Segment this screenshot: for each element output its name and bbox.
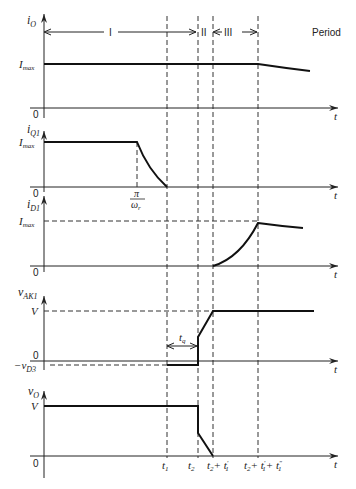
pi-over-omega-label: π ωr [130, 188, 145, 212]
id1-ylabel: iD1 [27, 197, 40, 213]
vo-v-label: V [31, 400, 39, 412]
t2-plus-t1p-plus-t1pp-label: t2+ t′1+ t″1 [244, 459, 282, 473]
io-imax-label: Imax [18, 58, 35, 72]
panel-id1: iD1 Imax 0 t [18, 196, 338, 280]
iq1-waveform [44, 142, 167, 187]
io-ylabel: iO [27, 13, 36, 29]
timing-diagram: iO Imax 0 t I II III Period iQ1 Imax 0 t… [0, 0, 356, 489]
period-ii-label: II [201, 27, 207, 38]
io-waveform [44, 64, 310, 71]
panel-iq1: iQ1 Imax 0 t π ωr [18, 122, 338, 212]
t2-label: t2 [188, 459, 195, 473]
iq1-t-label: t [334, 189, 338, 201]
iq1-zero-label: 0 [33, 188, 39, 199]
vo-waveform [44, 406, 213, 456]
panel-vak1: vAK1 V 0 −vD3 t tq [14, 285, 338, 375]
vo-ylabel: vO [28, 384, 39, 400]
vo-t-label: t [334, 458, 338, 470]
vak1-zero-label: 0 [33, 350, 39, 361]
id1-zero-label: 0 [33, 267, 39, 278]
iq1-ylabel: iQ1 [27, 122, 40, 138]
io-t-label: t [334, 110, 338, 122]
tq-label: tq [179, 331, 186, 345]
vak1-ylabel: vAK1 [18, 285, 38, 301]
panel-vo: vO V 0 t t1 t2 t2+ t′1 t2+ t′1+ t″1 [28, 384, 338, 478]
id1-imax-label: Imax [18, 215, 35, 229]
id1-t-label: t [334, 268, 338, 280]
vo-zero-label: 0 [33, 458, 39, 469]
period-i-label: I [109, 27, 112, 38]
t1-label: t1 [162, 459, 169, 473]
iq1-imax-label: Imax [18, 136, 35, 150]
svg-text:ωr: ωr [131, 199, 141, 212]
io-zero-label: 0 [33, 109, 39, 120]
svg-text:π: π [134, 188, 140, 199]
period-label: Period [312, 27, 341, 38]
t2-plus-t1p-label: t2+ t′1 [207, 459, 229, 473]
period-iii-label: III [224, 27, 232, 38]
vak1-v-label: V [31, 305, 39, 317]
time-marker-lines [167, 16, 258, 458]
panel-io: iO Imax 0 t I II III Period [18, 13, 341, 122]
vak1-waveform [167, 311, 314, 365]
vak1-t-label: t [334, 363, 338, 375]
